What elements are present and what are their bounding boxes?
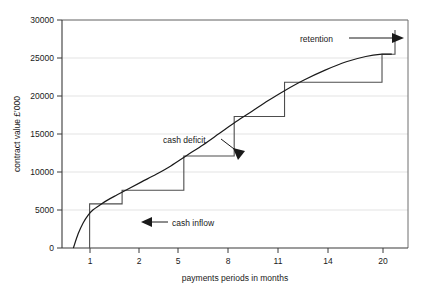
chart-figure: 30000 25000 20000 15000 10000 5000 0 con… bbox=[0, 0, 425, 290]
y-tick-label-30000: 30000 bbox=[30, 15, 54, 25]
y-tick-label-25000: 25000 bbox=[30, 53, 54, 63]
x-tick-label-11: 11 bbox=[274, 256, 283, 266]
annotation-label-retention: retention bbox=[300, 34, 333, 44]
x-tick-label-8: 8 bbox=[226, 256, 231, 266]
annotation-label-cash-inflow: cash inflow bbox=[172, 218, 215, 228]
y-tick-label-5000: 5000 bbox=[35, 205, 54, 215]
y-tick-label-15000: 15000 bbox=[30, 129, 54, 139]
y-tick-label-10000: 10000 bbox=[30, 167, 54, 177]
y-tick-label-0: 0 bbox=[49, 243, 54, 253]
contract-value-chart: 30000 25000 20000 15000 10000 5000 0 con… bbox=[0, 0, 425, 290]
x-tick-label-2: 2 bbox=[137, 256, 142, 266]
x-tick-label-20: 20 bbox=[378, 256, 388, 266]
x-axis-title: payments periods in months bbox=[182, 273, 288, 283]
y-axis-title: contract value £'000 bbox=[12, 96, 22, 172]
chart-background bbox=[0, 0, 425, 290]
annotation-label-cash-deficit: cash deficit bbox=[163, 135, 206, 145]
y-tick-label-20000: 20000 bbox=[30, 91, 54, 101]
x-tick-label-5: 5 bbox=[176, 256, 181, 266]
x-tick-label-14: 14 bbox=[323, 256, 333, 266]
x-tick-label-1: 1 bbox=[88, 256, 93, 266]
